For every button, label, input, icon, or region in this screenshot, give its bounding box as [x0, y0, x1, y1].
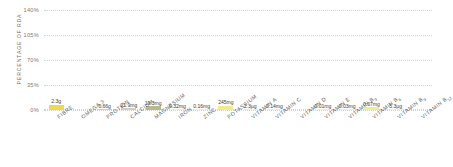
x-axis-label-slot: VITAMIN C [262, 113, 286, 167]
y-axis-tick-label: 35% [27, 82, 39, 88]
bar-column[interactable]: 19.3mg [141, 10, 165, 110]
bar-column[interactable]: 245mg [214, 10, 238, 110]
bar-column[interactable]: 21.9mg [117, 10, 141, 110]
x-axis-labels: FIBREOMEGA 3PROTEINCALCIUMMAGNESIUMIRONZ… [44, 113, 432, 167]
x-axis-label-slot: VITAMIN B6 [359, 113, 383, 167]
x-axis-label-slot: FIBRE [44, 113, 68, 167]
x-axis-label-slot: VITAMIN E [311, 113, 335, 167]
x-axis-label-slot: PROTEIN [93, 113, 117, 167]
x-axis-label-slot: POTASSIUM [214, 113, 238, 167]
y-axis-title: PERCENTAGE OF RDA [16, 7, 22, 91]
bar-column[interactable]: 0.14mg [262, 10, 286, 110]
bar-value-label: 2.3g [51, 98, 61, 104]
x-axis-label-slot: ZINC [190, 113, 214, 167]
y-axis-tick-label: 105% [23, 32, 39, 38]
x-axis-label-slot: CALCIUM [117, 113, 141, 167]
y-axis-tick-label: 0% [30, 107, 39, 113]
x-axis-label-slot: VITAMIN D [287, 113, 311, 167]
x-axis-label-slot: VITAMIN A [238, 113, 262, 167]
x-axis-label-slot: IRON [165, 113, 189, 167]
bar-value-label: 0.16mg [193, 103, 210, 109]
x-axis-label-slot: VITAMIN B12 [408, 113, 432, 167]
bar-column[interactable]: 0.66g [93, 10, 117, 110]
x-axis-label-slot: OMEGA 3 [68, 113, 92, 167]
x-axis-label-slot: VITAMIN B9 [384, 113, 408, 167]
bar-column[interactable]: 0.16mg [190, 10, 214, 110]
y-axis-tick-label: 70% [27, 57, 39, 63]
y-axis-tick-label: 140% [23, 7, 39, 13]
bar-column[interactable]: 2.3g [44, 10, 68, 110]
x-axis-label-slot: MAGNESIUM [141, 113, 165, 167]
bar-value-label: 245mg [218, 99, 233, 105]
x-axis-label-slot: VITAMIN B3 [335, 113, 359, 167]
bar-column[interactable] [68, 10, 92, 110]
